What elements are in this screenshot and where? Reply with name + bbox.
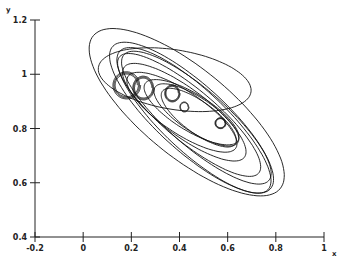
y-axis-label: y — [6, 6, 11, 14]
trajectories — [89, 29, 284, 196]
y-tick-label: 0.4 — [13, 233, 28, 242]
x-tick-label: 0.2 — [124, 244, 138, 253]
trajectory-curl-b — [133, 76, 155, 100]
y-ticks: 0.40.60.811.2 — [13, 16, 40, 242]
phase-plot: -0.200.20.40.60.81 0.40.60.811.2 x y — [0, 0, 339, 268]
y-tick-label: 1 — [21, 70, 27, 79]
x-tick-label: 0.4 — [172, 244, 187, 253]
x-ticks: -0.200.20.40.60.81 — [26, 232, 327, 253]
y-tick-label: 1.2 — [13, 16, 27, 25]
x-tick-label: 0.6 — [221, 244, 236, 253]
x-tick-label: 0.8 — [269, 244, 284, 253]
x-tick-label: 0 — [80, 244, 86, 253]
x-tick-label: -0.2 — [26, 244, 44, 253]
trajectory-start-arc — [98, 48, 251, 112]
y-tick-label: 0.8 — [13, 125, 28, 134]
trajectory-cycle-1 — [110, 42, 274, 193]
x-tick-label: 1 — [321, 244, 327, 253]
y-tick-label: 0.6 — [13, 179, 28, 188]
x-axis-label: x — [332, 250, 337, 258]
trajectory-curl-c — [165, 85, 180, 102]
trajectory-curl-e — [215, 118, 226, 129]
